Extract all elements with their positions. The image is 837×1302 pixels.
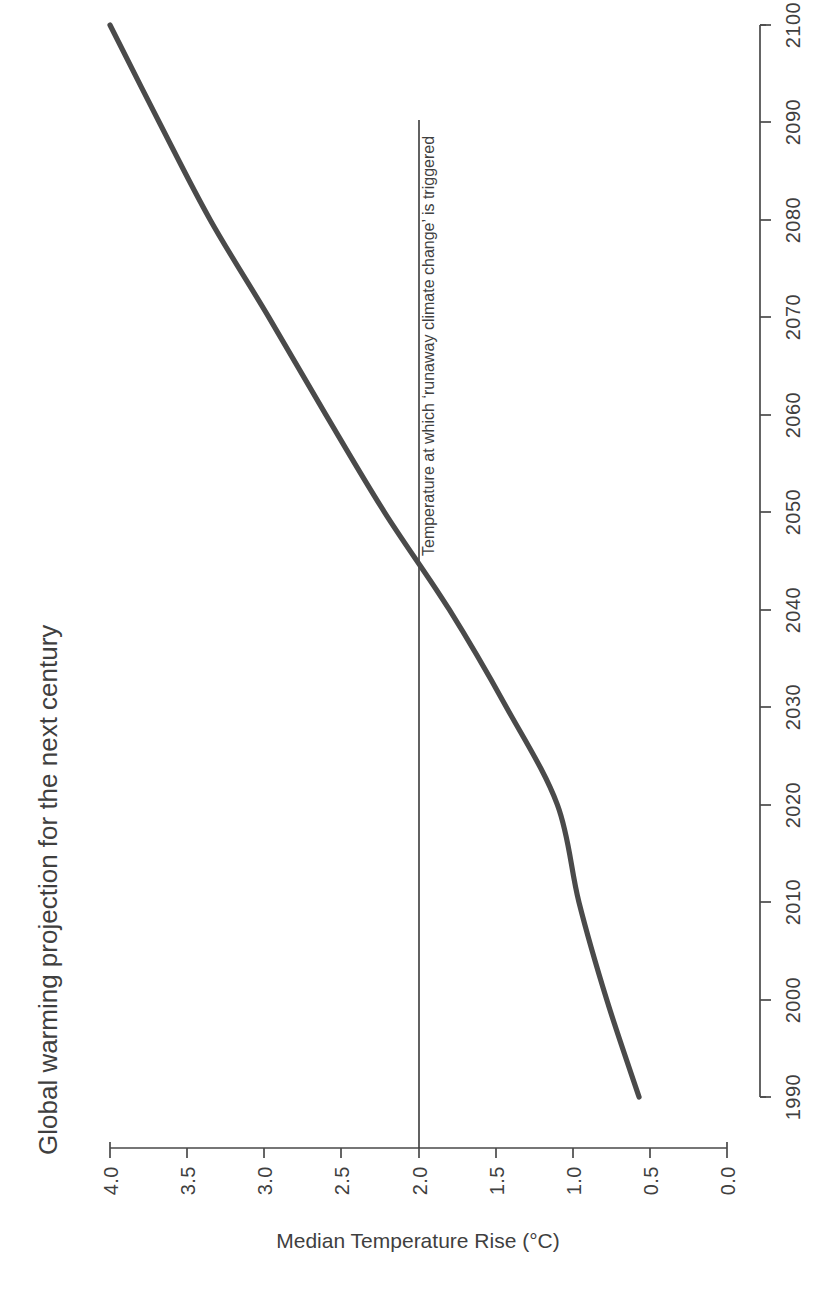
value-tick-label-3.0: 3.0 [254, 1166, 276, 1195]
year-tick-label-2080: 2080 [782, 197, 804, 244]
year-tick-label-2030: 2030 [782, 684, 804, 731]
chart-canvas: Global warming projection for the next c… [0, 0, 837, 1302]
chart-title-group: Global warming projection for the next c… [33, 625, 63, 1155]
year-tick-label-2090: 2090 [782, 99, 804, 146]
value-axis: 4.0 3.5 3.0 2.5 2.0 1.5 1.0 0.5 0.0 Medi… [100, 1142, 739, 1252]
value-tick-label-0.0: 0.0 [717, 1166, 739, 1195]
value-tick-label-2.5: 2.5 [331, 1166, 353, 1195]
year-tick-label-2040: 2040 [782, 587, 804, 634]
year-tick-label-2000: 2000 [782, 977, 804, 1024]
line-chart-figure: Global warming projection for the next c… [0, 0, 837, 1302]
year-tick-label-1990: 1990 [782, 1074, 804, 1121]
value-tick-label-4.0: 4.0 [100, 1166, 122, 1195]
year-axis: 2100 2090 2080 2070 2060 2050 2040 2030 … [760, 2, 804, 1121]
year-axis-spine [760, 25, 766, 1097]
year-tick-label-2070: 2070 [782, 294, 804, 341]
year-tick-label-2060: 2060 [782, 392, 804, 439]
year-tick-label-2010: 2010 [782, 879, 804, 926]
series-line-median-temperature-rise [110, 25, 639, 1097]
runaway-threshold-label: Temperature at which ‘runaway climate ch… [420, 136, 437, 556]
year-tick-label-2100: 2100 [782, 2, 804, 49]
value-tick-label-3.5: 3.5 [177, 1166, 199, 1195]
value-tick-label-1.5: 1.5 [486, 1166, 508, 1195]
year-tick-label-2050: 2050 [782, 489, 804, 536]
value-tick-label-2.0: 2.0 [409, 1166, 431, 1195]
value-axis-title: Median Temperature Rise (°C) [276, 1229, 559, 1252]
value-tick-label-0.5: 0.5 [640, 1166, 662, 1195]
value-tick-label-1.0: 1.0 [563, 1166, 585, 1195]
page-title: Global warming projection for the next c… [33, 625, 63, 1155]
threshold-group: Temperature at which ‘runaway climate ch… [419, 120, 437, 1148]
year-tick-label-2020: 2020 [782, 782, 804, 829]
series-group [110, 25, 639, 1097]
